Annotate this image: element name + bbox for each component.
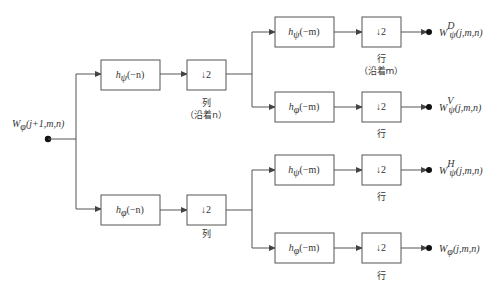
stage1-top-caption-2: （沿着n） bbox=[185, 109, 227, 120]
stage1-bottom-caption: 列 bbox=[202, 228, 211, 239]
stage1-top-downsample: ↓2 bbox=[187, 60, 226, 90]
stage2-branch-approximation: hφ(−m) ↓2 Wφ(j,m,n) 行 bbox=[275, 233, 480, 281]
output-dot-icon bbox=[426, 29, 432, 35]
svg-text:WDψ(j,m,n): WDψ(j,m,n) bbox=[439, 20, 483, 40]
stage2-split-wires bbox=[226, 32, 252, 248]
svg-text:行: 行 bbox=[377, 53, 386, 64]
svg-text:↓2: ↓2 bbox=[201, 69, 211, 80]
svg-text:↓2: ↓2 bbox=[376, 26, 386, 37]
svg-text:↓2: ↓2 bbox=[376, 164, 386, 175]
svg-text:（沿着m）: （沿着m） bbox=[359, 65, 404, 76]
stage1-top-filter: hψ(−n) bbox=[101, 60, 160, 90]
stage2-branch-diagonal: hψ(−m) ↓2 WDψ(j,m,n) 行 （沿着m） bbox=[275, 17, 483, 76]
svg-text:↓2: ↓2 bbox=[376, 101, 386, 112]
stage1-split-wire bbox=[48, 74, 76, 209]
svg-text:↓2: ↓2 bbox=[376, 242, 386, 253]
svg-text:行: 行 bbox=[377, 128, 386, 139]
svg-text:Wφ(j,m,n): Wφ(j,m,n) bbox=[439, 243, 480, 257]
svg-text:行: 行 bbox=[377, 191, 386, 202]
output-dot-icon bbox=[426, 245, 432, 251]
stage2-branch-vertical: hφ(−m) ↓2 WVψ(j,m,n) 行 bbox=[275, 92, 482, 139]
svg-text:↓2: ↓2 bbox=[201, 204, 211, 215]
svg-text:行: 行 bbox=[377, 270, 386, 281]
filter-bank-diagram: Wφ(j+1,m,n) hψ(−n) ↓2 列 （沿着n） hφ(−n) ↓2 … bbox=[0, 0, 494, 292]
input-label: Wφ(j+1,m,n) bbox=[12, 118, 65, 132]
stage1-top-caption: 列 bbox=[202, 97, 211, 108]
output-dot-icon bbox=[426, 104, 432, 110]
output-dot-icon bbox=[426, 167, 432, 173]
stage1-bottom-downsample: ↓2 bbox=[187, 195, 226, 225]
svg-text:WVψ(j,m,n): WVψ(j,m,n) bbox=[439, 95, 482, 115]
stage1-bottom-filter: hφ(−n) bbox=[101, 195, 160, 225]
stage2-branch-horizontal: hψ(−m) ↓2 WHψ(j,m,n) 行 bbox=[275, 155, 483, 202]
svg-text:WHψ(j,m,n): WHψ(j,m,n) bbox=[439, 158, 483, 178]
